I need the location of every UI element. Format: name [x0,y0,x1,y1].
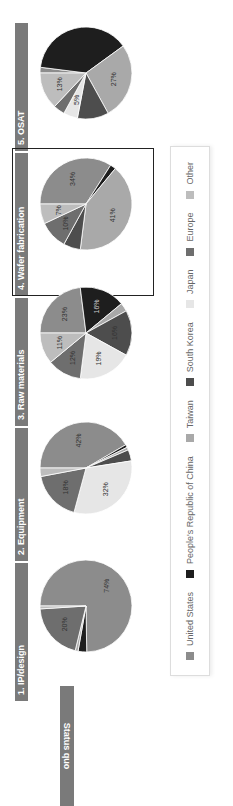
panel-title-osat: 5. OSAT [15,21,28,151]
legend-swatch-icon [186,191,194,199]
legend-label: Europe [185,213,195,242]
pie-wafer-fabrication: 34%41%10%7% [36,154,136,254]
legend-swatch-icon [186,248,194,256]
legend-label: Taiwan [185,400,195,428]
legend-swatch-icon [186,570,194,578]
legend-item: Taiwan [185,400,195,442]
legend-swatch-icon [186,300,194,308]
panel-title-ip-design: 1. IP/design [15,561,28,701]
legend-item: Japan [185,270,195,309]
legend-item: Other [185,162,195,199]
slice-label: 27% [110,72,117,86]
slice-label: 23% [61,307,68,321]
panel-title-equipment: 2. Equipment [15,426,28,561]
slice-label: 34% [69,172,76,186]
panel-header-bar: 1. IP/design 2. Equipment 3. Raw materia… [15,21,28,701]
pie-equipment: 42%32%18% [36,418,136,518]
slice-label: 41% [109,208,116,222]
slice-label: 16% [93,299,100,313]
panel-title-raw-materials: 3. Raw materials [15,296,28,426]
legend-item: People's Republic of China [185,456,195,578]
slice-label: 19% [95,351,102,365]
slice-label: 16% [111,326,118,340]
pie-ip-design: 74%20% [36,556,136,656]
slice-label: 32% [102,482,109,496]
slice-label: 10% [62,217,69,231]
slice-label: 5% [73,95,80,105]
legend-item: South Korea [185,322,195,386]
legend-label: United States [185,592,195,646]
slice-label: 18% [62,480,69,494]
slice-label: 11% [56,336,63,350]
legend-label: South Korea [185,322,195,372]
slice-label: 12% [69,351,76,365]
slice-label: 74% [103,579,110,593]
slice-label: 42% [75,433,82,447]
slice-label: 13% [56,77,63,91]
legend-swatch-icon [186,378,194,386]
legend-label: People's Republic of China [185,456,195,564]
legend-item: United States [185,592,195,660]
legend-label: Japan [185,270,195,295]
legend-label: Other [185,162,195,185]
slice-label: 20% [61,617,68,631]
legend: United StatesPeople's Republic of ChinaT… [170,146,210,676]
legend-item: Europe [185,213,195,256]
legend-swatch-icon [186,652,194,660]
row-label-status-quo: Status quo [60,686,74,806]
pie-osat: 27%5%13% [36,23,136,123]
legend-swatch-icon [186,434,194,442]
pie-raw-materials: 23%16%16%19%12%11% [36,283,136,383]
slice-label: 7% [55,205,62,215]
